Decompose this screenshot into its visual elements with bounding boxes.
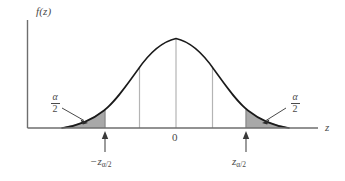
right-alpha-numerator: α — [288, 92, 302, 103]
normal-distribution-figure: f(z) z 0 −zα/2 zα/2 α 2 α 2 — [0, 0, 345, 181]
right-critical-tick-arrow — [243, 131, 249, 152]
positive-critical-subscript: α/2 — [236, 160, 246, 169]
right-alpha-leader-line — [262, 108, 286, 125]
left-critical-tick-arrow — [102, 131, 108, 152]
negative-critical-subscript: α/2 — [102, 160, 112, 169]
right-tail-alpha-over-two-label: α 2 — [288, 92, 302, 114]
y-axis-label: f(z) — [36, 6, 51, 17]
right-alpha-denominator: 2 — [288, 104, 302, 115]
left-alpha-leader-line — [62, 108, 88, 125]
negative-critical-prefix: −z — [90, 155, 102, 167]
x-tick-label-negative-critical: −zα/2 — [90, 156, 111, 168]
left-alpha-numerator: α — [48, 92, 62, 103]
x-tick-label-zero: 0 — [172, 132, 178, 143]
right-tail-shaded-region — [246, 109, 289, 128]
left-alpha-denominator: 2 — [48, 104, 62, 115]
x-axis-label: z — [325, 122, 329, 133]
x-tick-label-positive-critical: zα/2 — [232, 156, 246, 168]
left-tail-alpha-over-two-label: α 2 — [48, 92, 62, 114]
